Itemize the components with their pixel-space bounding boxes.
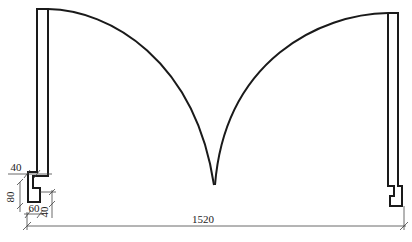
overall-width-dimension [23, 206, 408, 230]
right-post [388, 13, 402, 206]
overall-width-label: 1520 [192, 213, 215, 225]
foot-step-label: 40 [38, 206, 50, 218]
foot-height-label: 80 [4, 191, 16, 203]
left-arch-curve [48, 9, 214, 185]
right-arch-curve [215, 13, 388, 185]
foot-height-dimension [17, 179, 23, 212]
gate-drawing: 1520 40 80 60 40 [0, 0, 412, 242]
post-width-label: 40 [11, 161, 23, 173]
right-post-outline [388, 13, 402, 206]
